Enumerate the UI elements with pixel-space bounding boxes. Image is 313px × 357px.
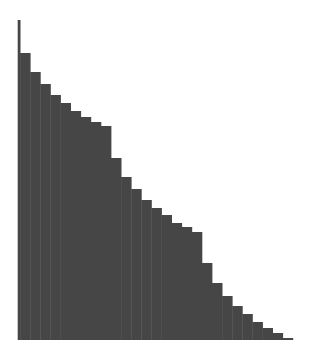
bar-8 — [81, 117, 92, 340]
bar-15 — [151, 208, 162, 340]
bar-26 — [263, 328, 274, 340]
bar-20 — [202, 263, 213, 340]
bar-11 — [111, 158, 122, 340]
bar-2 — [20, 53, 31, 340]
bar-14 — [141, 200, 152, 340]
bar-23 — [232, 306, 243, 340]
bar-series — [18, 20, 294, 340]
bar-27 — [273, 333, 284, 340]
bar-4 — [40, 84, 51, 340]
bar-22 — [222, 296, 233, 340]
bar-13 — [131, 189, 142, 340]
bar-10 — [101, 126, 112, 340]
bar-12 — [121, 177, 132, 340]
step-histogram-chart — [0, 0, 313, 357]
bar-19 — [192, 232, 203, 340]
bar-18 — [182, 227, 193, 340]
bar-28 — [283, 338, 294, 340]
bar-9 — [91, 122, 102, 340]
bar-24 — [242, 314, 253, 340]
bar-3 — [30, 72, 41, 340]
chart-plot-area — [0, 0, 313, 357]
bar-25 — [252, 322, 263, 340]
bar-17 — [172, 223, 183, 340]
bar-1 — [18, 20, 21, 340]
bar-5 — [50, 95, 61, 340]
bar-7 — [71, 111, 82, 340]
bar-6 — [61, 103, 72, 340]
bar-21 — [212, 283, 223, 340]
bar-16 — [162, 215, 173, 340]
